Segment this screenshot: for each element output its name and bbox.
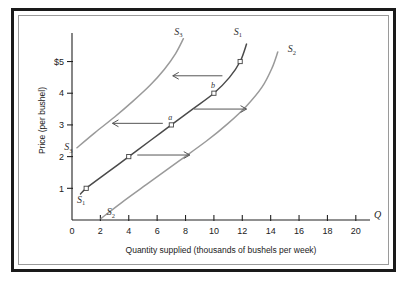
supply-curve-S3 — [77, 39, 183, 148]
data-markers-group: ab — [84, 59, 242, 190]
supply-curve-S2 — [101, 52, 278, 218]
supply-curve-chart: 1234$502468101214161820Q ab S3S1S2S3S1S2… — [18, 15, 389, 265]
y-tick-label: 2 — [59, 152, 64, 162]
curve-label-S1-top: S1 — [234, 26, 242, 39]
curve-label-S1-origin: S1 — [77, 194, 85, 207]
y-tick-label: $5 — [54, 57, 64, 67]
data-point-marker — [169, 123, 173, 127]
x-tick-label: 6 — [155, 226, 160, 236]
data-point-marker — [212, 91, 216, 95]
point-label-b: b — [211, 81, 215, 90]
x-tick-label: 8 — [183, 226, 188, 236]
curve-label-S3-left: S3 — [64, 141, 72, 154]
x-axis-title: Quantity supplied (thousands of bushels … — [126, 245, 317, 255]
data-point-marker — [84, 186, 88, 190]
x-axis-letter: Q — [374, 209, 382, 220]
figure-root: 1234$502468101214161820Q ab S3S1S2S3S1S2… — [0, 0, 408, 281]
curve-labels-group: S3S1S2S3S1S2 — [64, 26, 296, 219]
x-tick-label: 10 — [209, 226, 219, 236]
shift-arrows-group — [112, 72, 246, 158]
axes-group: 1234$502468101214161820Q — [54, 33, 382, 236]
point-label-a: a — [168, 113, 172, 122]
y-tick-label: 3 — [59, 120, 64, 130]
y-tick-label: 4 — [59, 88, 64, 98]
y-tick-label: 1 — [59, 184, 64, 194]
data-point-marker — [238, 59, 242, 63]
x-tick-label: 14 — [266, 226, 276, 236]
curve-label-S2-top: S2 — [288, 43, 296, 56]
x-tick-label: 20 — [351, 226, 361, 236]
x-tick-label: 18 — [322, 226, 332, 236]
x-tick-label: 2 — [98, 226, 103, 236]
data-point-marker — [127, 155, 131, 159]
x-tick-label: 12 — [237, 226, 247, 236]
y-axis-title: Price (per bushel) — [37, 87, 47, 154]
curve-label-S3-top: S3 — [174, 26, 182, 39]
x-tick-label: 16 — [294, 226, 304, 236]
curves-group — [77, 39, 278, 219]
x-tick-label: 0 — [69, 226, 74, 236]
x-tick-label: 4 — [126, 226, 131, 236]
